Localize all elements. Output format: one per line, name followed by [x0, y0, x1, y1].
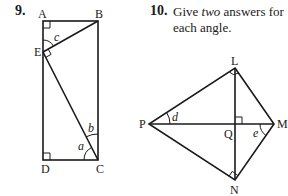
point-label-m: M	[277, 117, 288, 131]
point-label-e: E	[34, 45, 41, 59]
point-label-c: C	[96, 162, 104, 176]
angle-label-e: e	[253, 126, 259, 140]
point-label-l: L	[231, 54, 238, 68]
geometry-figures: A B E D C c b a L P M Q N d e	[0, 0, 288, 196]
point-label-p: P	[139, 117, 146, 131]
point-label-n: N	[230, 183, 239, 196]
point-label-q: Q	[224, 127, 233, 141]
point-label-d: D	[41, 162, 50, 176]
point-label-a: A	[38, 7, 47, 21]
angle-label-c: c	[54, 30, 60, 44]
figure-10-kite	[149, 68, 274, 180]
point-label-b: B	[95, 7, 103, 21]
angle-label-d: d	[172, 110, 179, 124]
angle-label-a: a	[78, 139, 84, 153]
angle-label-b: b	[88, 121, 94, 135]
figure-9-rectangle	[43, 21, 98, 160]
